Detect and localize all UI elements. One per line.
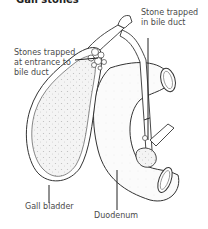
label-line: Stones trapped	[14, 48, 75, 58]
duct-stone	[143, 136, 148, 141]
label-line: bile duct	[14, 68, 75, 78]
label-line: Stone trapped	[141, 8, 198, 18]
label-line: in bile duct	[141, 18, 198, 28]
gallbladder-anatomy-illustration	[0, 0, 208, 229]
label-duodenum: Duodenum	[94, 211, 138, 221]
label-stone-bile-duct: Stone trapped in bile duct	[141, 8, 198, 28]
label-stones-entrance: Stones trapped at entrance to bile duct	[14, 48, 75, 78]
label-line: at entrance to	[14, 58, 75, 68]
label-gall-bladder: Gall bladder	[25, 202, 74, 212]
